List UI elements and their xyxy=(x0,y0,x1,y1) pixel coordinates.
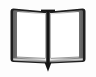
spine-gutter-left xyxy=(46,14,47,58)
left-page-group xyxy=(11,9,47,64)
left-page-surface xyxy=(17,12,45,59)
open-book-icon: Open Book Black and white line-art icon … xyxy=(0,0,96,77)
spine-shaft xyxy=(46,10,49,63)
open-book-illustration: Open Book Black and white line-art icon … xyxy=(0,0,96,77)
spine-gutter-right xyxy=(50,14,51,58)
right-page-surface xyxy=(51,12,79,59)
right-page-group xyxy=(50,9,86,64)
